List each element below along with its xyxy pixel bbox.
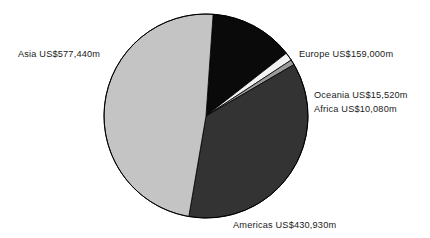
slice-label-africa: Africa US$10,080m <box>314 103 397 115</box>
pie-slice-group <box>104 14 308 218</box>
pie-chart-svg <box>0 0 430 238</box>
slice-label-europe: Europe US$159,000m <box>299 48 393 60</box>
pie-chart-figure: Asia US$577,440m Europe US$159,000m Ocea… <box>0 0 430 238</box>
slice-label-asia: Asia US$577,440m <box>18 48 100 60</box>
slice-label-americas: Americas US$430,930m <box>233 219 336 231</box>
slice-label-oceania: Oceania US$15,520m <box>314 89 408 101</box>
